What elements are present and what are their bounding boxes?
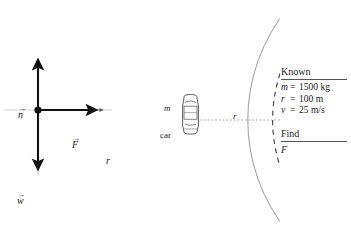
- curved-road-canvas: [140, 0, 280, 240]
- car-mass-label: m: [164, 104, 171, 113]
- known-find-panel: Known m = 1500 kg r = 100 m v = 25 m/s F…: [281, 66, 347, 156]
- origin-dot: [34, 106, 41, 113]
- weight-vector-hat-icon: →: [17, 191, 25, 199]
- known-row-velocity: v = 25 m/s: [281, 105, 347, 117]
- known-velocity-value: 25 m/s: [299, 105, 325, 117]
- known-radius-value: 100 m: [299, 94, 323, 106]
- known-mass-equals: =: [290, 82, 299, 94]
- free-body-diagram: → n → F → w r: [0, 48, 130, 188]
- car-text-label: car: [160, 131, 171, 140]
- known-row-radius: r = 100 m: [281, 94, 347, 106]
- known-radius-symbol: r: [281, 94, 290, 106]
- find-rule: [281, 141, 347, 142]
- net-force-label: → F: [72, 140, 78, 150]
- r-axis-label: r: [106, 156, 110, 166]
- known-row-mass: m = 1500 kg: [281, 82, 347, 94]
- force-vector-hat-icon: →: [72, 135, 80, 143]
- normal-vector-hat-icon: →: [18, 105, 26, 113]
- find-heading: Find: [281, 128, 347, 141]
- find-value: F: [281, 144, 347, 156]
- known-rule: [281, 79, 347, 80]
- weight-label: → w: [17, 196, 24, 206]
- radius-label: r: [233, 112, 237, 121]
- known-heading: Known: [281, 66, 347, 79]
- find-block: Find F: [281, 128, 347, 156]
- known-radius-equals: =: [290, 94, 299, 106]
- curved-road-scene: [140, 0, 280, 240]
- known-velocity-symbol: v: [281, 105, 290, 117]
- car-top-view-icon: [180, 92, 201, 136]
- physics-figure: → n → F → w r: [0, 0, 351, 240]
- known-mass-symbol: m: [281, 82, 290, 94]
- car-graphic: [180, 92, 201, 136]
- normal-force-label: → n: [18, 110, 23, 120]
- known-velocity-equals: =: [290, 105, 299, 117]
- known-mass-value: 1500 kg: [299, 82, 330, 94]
